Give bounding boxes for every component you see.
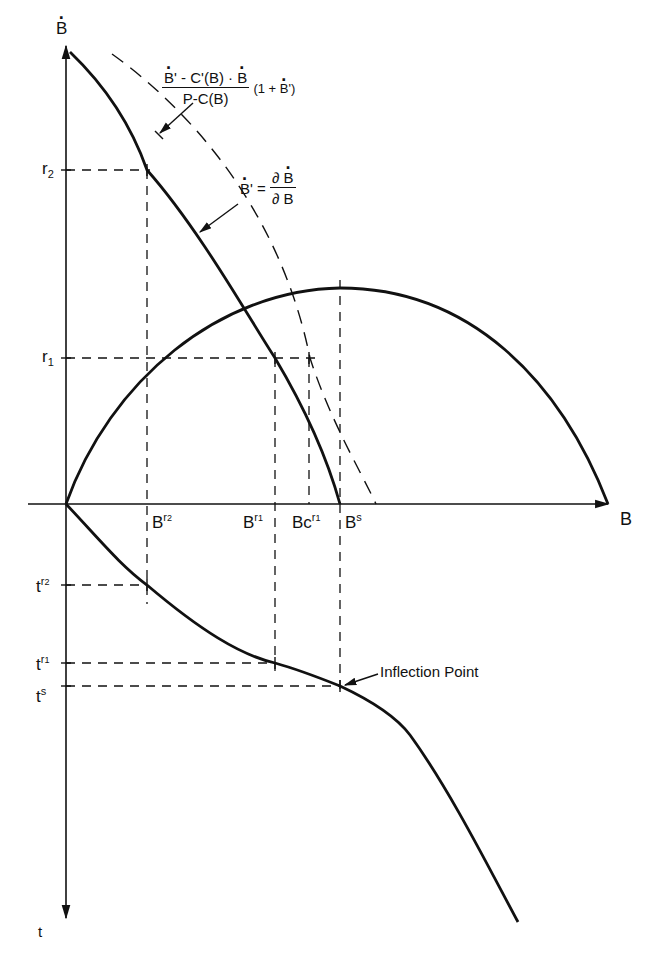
axes [28, 46, 608, 918]
tick-label-tr2: tr2 [36, 578, 49, 595]
marginal-growth-curve [70, 52, 340, 504]
tick-label-tr1: tr1 [36, 656, 49, 673]
solid-formula-pointer [200, 204, 238, 232]
tick-label-r2: r2 [42, 160, 54, 177]
inflection-point-label: Inflection Point [380, 664, 478, 679]
tick-label-Bs: Bs [345, 514, 362, 531]
formula-marginal-growth: B' = ∂ B ∂ B [240, 170, 296, 206]
inflection-pointer [345, 674, 378, 685]
diagram-canvas [0, 0, 664, 976]
tick-label-Br1: Br1 [243, 514, 263, 531]
tick-label-ts: ts [36, 688, 46, 705]
vertical-axis-label-Bdot: B [56, 20, 67, 37]
dashed-adjusted-curve [112, 54, 376, 504]
dashed-formula-pointer [160, 103, 193, 133]
formula-adjusted-curve: B' - C'(B) · B P-C(B) (1 + B') [162, 70, 295, 106]
tick-label-Bcr1: Bcr1 [292, 514, 321, 531]
tick-label-Br2: Br2 [152, 514, 172, 531]
tick-label-r1: r1 [42, 348, 54, 365]
guide-lines [66, 170, 340, 696]
vertical-axis-label-t: t [38, 924, 42, 939]
horizontal-axis-label-B: B [620, 510, 632, 528]
time-path-curve [66, 504, 518, 922]
